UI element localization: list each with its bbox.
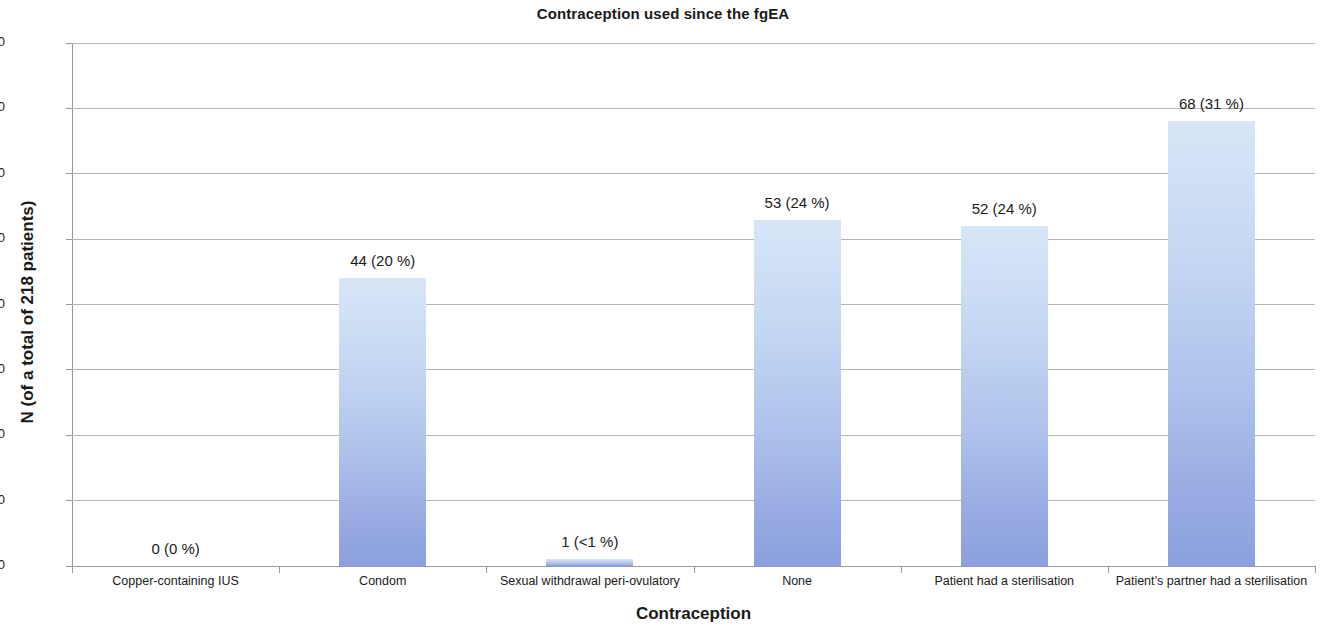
x-tick-label: Patient had a sterilisation <box>901 574 1108 589</box>
y-tick-label: 0 <box>0 557 5 572</box>
x-tick-mark <box>486 566 487 573</box>
x-tick-label: Copper-containing IUS <box>72 574 279 589</box>
plot-area <box>72 43 1315 566</box>
gridline <box>72 304 1315 305</box>
y-tick-mark <box>66 500 72 501</box>
gridline <box>72 369 1315 370</box>
y-tick-mark <box>66 304 72 305</box>
bar[interactable] <box>961 226 1048 566</box>
x-tick-label: Sexual withdrawal peri-ovulatory <box>486 574 693 589</box>
x-axis-title: Contraception <box>72 604 1315 624</box>
y-tick-label: 50 <box>0 230 5 245</box>
y-tick-mark <box>66 108 72 109</box>
x-tick-mark <box>72 566 73 573</box>
y-tick-label: 80 <box>0 34 5 49</box>
x-tick-mark <box>694 566 695 573</box>
bar[interactable] <box>339 278 426 566</box>
x-tick-mark <box>1108 566 1109 573</box>
gridline <box>72 435 1315 436</box>
y-tick-mark <box>66 435 72 436</box>
y-axis-title: N (of a total of 218 patients) <box>18 147 38 477</box>
gridline <box>72 239 1315 240</box>
bar-value-label: 44 (20 %) <box>293 252 473 269</box>
bar-chart-figure: Contraception used since the fgEA N (of … <box>0 0 1326 633</box>
y-tick-mark <box>66 43 72 44</box>
x-tick-mark <box>1315 566 1316 573</box>
x-tick-label: Patient’s partner had a sterilisation <box>1108 574 1315 589</box>
gridline <box>72 43 1315 44</box>
y-tick-label: 30 <box>0 361 5 376</box>
y-tick-label: 40 <box>0 296 5 311</box>
bar-value-label: 1 (<1 %) <box>500 533 680 550</box>
bar[interactable] <box>754 220 841 566</box>
x-tick-mark <box>279 566 280 573</box>
gridline <box>72 173 1315 174</box>
bar[interactable] <box>546 559 633 566</box>
bar[interactable] <box>1168 121 1255 566</box>
x-tick-label: Condom <box>279 574 486 589</box>
x-tick-label: None <box>694 574 901 589</box>
y-tick-mark <box>66 369 72 370</box>
y-tick-label: 70 <box>0 99 5 114</box>
y-tick-label: 20 <box>0 426 5 441</box>
y-tick-mark <box>66 173 72 174</box>
bar-value-label: 68 (31 %) <box>1121 95 1301 112</box>
y-tick-mark <box>66 239 72 240</box>
bar-value-label: 52 (24 %) <box>914 200 1094 217</box>
y-tick-label: 10 <box>0 492 5 507</box>
chart-title: Contraception used since the fgEA <box>0 5 1326 22</box>
x-tick-mark <box>901 566 902 573</box>
bar-value-label: 0 (0 %) <box>86 540 266 557</box>
gridline <box>72 500 1315 501</box>
y-tick-label: 60 <box>0 165 5 180</box>
bar-value-label: 53 (24 %) <box>707 194 887 211</box>
